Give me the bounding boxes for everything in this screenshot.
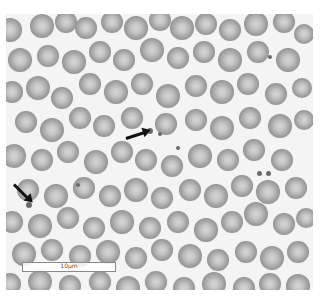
red-blood-cell (210, 80, 234, 104)
red-blood-cell (296, 208, 313, 228)
red-blood-cell (101, 14, 123, 33)
red-blood-cell (99, 185, 121, 207)
red-blood-cell (167, 211, 189, 233)
red-blood-cell (178, 244, 202, 268)
red-blood-cell (135, 149, 157, 171)
red-blood-cell (131, 73, 153, 95)
red-blood-cell (193, 41, 215, 63)
red-blood-cell (195, 14, 217, 35)
red-blood-cell (221, 211, 243, 233)
red-blood-cell (8, 48, 32, 72)
red-blood-cell (124, 178, 148, 202)
red-blood-cell (151, 187, 173, 209)
red-blood-cell (44, 184, 68, 208)
red-blood-cell (273, 14, 295, 33)
red-blood-cell (276, 48, 300, 72)
red-blood-cell (57, 141, 79, 163)
red-blood-cell (139, 217, 161, 239)
red-blood-cell (79, 73, 101, 95)
red-blood-cell (244, 202, 268, 226)
red-blood-cell (161, 155, 183, 177)
red-blood-cell (287, 241, 309, 263)
red-blood-cell (286, 274, 310, 290)
red-blood-cell (110, 210, 134, 234)
red-blood-cell (51, 87, 73, 109)
platelet (76, 183, 80, 187)
red-blood-cell (116, 276, 140, 290)
red-blood-cell (218, 48, 242, 72)
red-blood-cell (113, 49, 135, 71)
platelet (266, 171, 271, 176)
red-blood-cell (104, 80, 128, 104)
red-blood-cell (194, 218, 218, 242)
scale-bar: 10μm (22, 262, 116, 272)
red-blood-cell (219, 19, 241, 41)
red-blood-cell (235, 241, 257, 263)
red-blood-cell (271, 149, 293, 171)
red-blood-cell (124, 16, 148, 40)
red-blood-cell (244, 14, 268, 36)
red-blood-cell (28, 270, 52, 290)
red-blood-cell (156, 84, 180, 108)
red-blood-cell (265, 83, 287, 105)
blood-smear-micrograph (6, 14, 313, 290)
red-blood-cell (285, 177, 307, 199)
red-blood-cell (268, 114, 292, 138)
red-blood-cell (256, 180, 280, 204)
red-blood-cell (93, 115, 115, 137)
red-blood-cell (167, 47, 189, 69)
red-blood-cell (41, 239, 63, 261)
red-blood-cell (207, 249, 229, 271)
red-blood-cell (185, 75, 207, 97)
red-blood-cell (69, 107, 91, 129)
red-blood-cell (151, 239, 173, 261)
red-blood-cell (62, 50, 86, 74)
red-blood-cell (37, 45, 59, 67)
platelet (158, 132, 162, 136)
red-blood-cell (6, 273, 21, 290)
red-blood-cell (292, 78, 312, 98)
red-blood-cell (294, 110, 313, 130)
red-blood-cell (145, 271, 167, 290)
platelet (176, 146, 180, 150)
red-blood-cell (239, 107, 261, 129)
red-blood-cell (247, 41, 269, 63)
red-blood-cell (204, 184, 228, 208)
red-blood-cell (83, 217, 105, 239)
red-blood-cell (237, 73, 259, 95)
red-blood-cell (75, 17, 97, 39)
red-blood-cell (233, 277, 255, 290)
red-blood-cell (260, 246, 284, 270)
red-blood-cell (111, 141, 133, 163)
red-blood-cell (179, 179, 201, 201)
red-blood-cell (202, 272, 226, 290)
red-blood-cell (140, 38, 164, 62)
red-blood-cell (6, 18, 22, 42)
scale-bar-label: 10μm (23, 262, 115, 269)
red-blood-cell (6, 81, 23, 103)
red-blood-cell (170, 16, 194, 40)
red-blood-cell (26, 76, 50, 100)
red-blood-cell (185, 109, 207, 131)
red-blood-cell (294, 24, 313, 44)
red-blood-cell (31, 149, 53, 171)
red-blood-cell (273, 213, 295, 235)
platelet (257, 171, 262, 176)
platelet (268, 55, 272, 59)
red-blood-cell (55, 14, 77, 33)
red-blood-cell (188, 144, 212, 168)
red-blood-cell (6, 211, 23, 233)
red-blood-cell (243, 139, 265, 161)
red-blood-cell (259, 273, 281, 290)
red-blood-cell (28, 214, 52, 238)
red-blood-cell (231, 175, 253, 197)
red-blood-cell (84, 150, 108, 174)
red-blood-cell (59, 275, 81, 290)
red-blood-cell (40, 118, 64, 142)
red-blood-cell (30, 14, 54, 38)
red-blood-cell (173, 277, 195, 290)
red-blood-cell (125, 247, 147, 269)
red-blood-cell (89, 41, 111, 63)
red-blood-cell (6, 144, 26, 168)
red-blood-cell (210, 116, 234, 140)
